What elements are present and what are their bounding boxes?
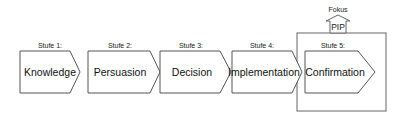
stage-3: Stufe 3: Decision xyxy=(160,42,231,93)
diffusion-stages-diagram: PIP Fokus Stufe 1: Knowledge Stufe 2: Pe… xyxy=(0,0,399,118)
diagram-svg: PIP Fokus Stufe 1: Knowledge Stufe 2: Pe… xyxy=(0,0,399,118)
stage-label: Stufe 3: xyxy=(179,42,203,49)
stage-label: Stufe 2: xyxy=(108,42,132,49)
stage-label: Stufe 5: xyxy=(321,42,345,49)
stage-label: Stufe 1: xyxy=(38,42,62,49)
stage-name: Implementation xyxy=(228,66,300,78)
stage-name: Confirmation xyxy=(305,66,365,78)
stage-5: Stufe 5: Confirmation xyxy=(305,42,375,93)
pip-label: PIP xyxy=(331,22,345,32)
focus-caption: Fokus xyxy=(328,6,348,13)
stage-2: Stufe 2: Persuasion xyxy=(88,42,160,93)
stage-name: Persuasion xyxy=(94,66,147,78)
stage-name: Decision xyxy=(172,66,212,78)
stage-name: Knowledge xyxy=(24,66,76,78)
stage-label: Stufe 4: xyxy=(250,42,274,49)
stage-4: Stufe 4: Implementation xyxy=(228,42,302,93)
stage-1: Stufe 1: Knowledge xyxy=(20,42,80,93)
